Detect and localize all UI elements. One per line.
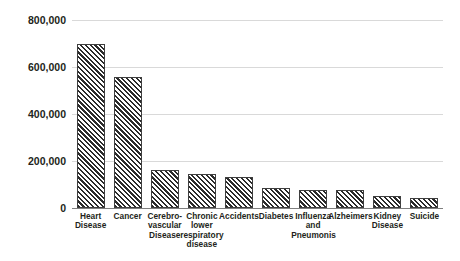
plot-area: [72, 20, 443, 208]
x-axis-label-line: Suicide: [402, 212, 446, 221]
bar: [336, 190, 364, 208]
bar-series: [72, 20, 443, 208]
bar: [299, 190, 327, 208]
x-axis-category-labels: HeartDiseaseCancerCerebro-vascularDiseas…: [72, 212, 443, 261]
bar: [410, 198, 438, 208]
bar: [373, 196, 401, 208]
bar: [114, 77, 142, 208]
x-axis-label-line: disease: [180, 240, 224, 249]
x-axis-category-label: Suicide: [402, 212, 446, 221]
y-axis-tick-label: 200,000: [0, 155, 66, 167]
bar: [77, 44, 105, 208]
y-axis-tick-labels: 0200,000400,000600,000800,000: [0, 20, 66, 208]
y-axis-tick-label: 800,000: [0, 14, 66, 26]
y-axis-tick-label: 600,000: [0, 61, 66, 73]
bar: [262, 188, 290, 208]
x-axis-label-line: Pneumonis: [291, 231, 335, 240]
bar-chart: 0200,000400,000600,000800,000 HeartDisea…: [0, 0, 460, 261]
axis-baseline: [72, 208, 443, 209]
x-axis-label-line: Disease: [365, 221, 409, 230]
y-axis-tick-label: 400,000: [0, 108, 66, 120]
y-axis-tick-label: 0: [0, 202, 66, 214]
x-axis-label-line: Disease: [69, 221, 113, 230]
bar: [225, 177, 253, 208]
bar: [151, 170, 179, 208]
bar: [188, 174, 216, 208]
